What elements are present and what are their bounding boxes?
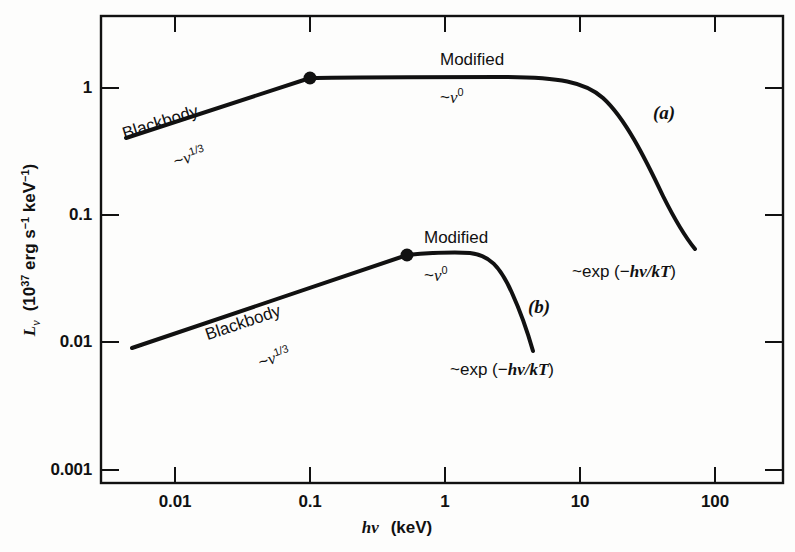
y-axis-title-symbol: L: [20, 326, 39, 336]
y-axis-unit-prefix: (10: [20, 287, 39, 312]
y-axis-unit-exp3: −1: [19, 170, 31, 182]
x-tick-label-100: 100: [701, 492, 729, 512]
y-axis-ticks-left: [101, 88, 119, 470]
y-tick-label-0.1: 0.1: [0, 205, 92, 225]
y-axis-unit-exp1: 37: [19, 275, 31, 287]
panel-tag-a: (a): [653, 102, 675, 124]
y-axis-unit-mid2: keV: [20, 182, 39, 217]
curve-b: [132, 253, 533, 351]
y-axis-title: Lν(1037 erg s−1 keV−1): [20, 164, 43, 336]
y-axis-unit-suffix: ): [20, 164, 39, 170]
y-axis-title-subscript: ν: [29, 320, 43, 325]
exp-upper-modified: 0: [457, 86, 463, 98]
x-axis-ticks-bottom: [175, 467, 715, 483]
annotation-lower-modified: Modified: [424, 228, 488, 248]
x-tick-label-0.1: 0.1: [298, 492, 321, 512]
curve-a-transition-dot: [304, 72, 317, 85]
y-tick-label-0.001: 0.001: [0, 460, 92, 480]
lower-cutoff-math: hν/kT: [508, 360, 549, 379]
x-axis-title: hν(keV): [362, 518, 433, 538]
lower-cutoff-prefix: exp (−: [460, 360, 508, 379]
curve-b-transition-dot: [401, 249, 414, 262]
y-axis-unit-exp2: −1: [19, 217, 31, 229]
x-tick-label-1: 1: [440, 492, 449, 512]
x-axis-ticks-top: [175, 16, 715, 32]
upper-cutoff-math: hν/kT: [630, 262, 671, 281]
y-axis-unit-mid1: erg s: [20, 229, 39, 274]
curve-a: [126, 77, 695, 249]
x-tick-label-10: 10: [571, 492, 590, 512]
panel-tag-b: (b): [528, 296, 550, 318]
exp-lower-modified: 0: [441, 264, 447, 276]
x-tick-label-0.01: 0.01: [159, 492, 191, 512]
annotation-lower-cutoff: ~exp (−hν/kT): [450, 360, 554, 380]
upper-cutoff-prefix: exp (−: [582, 262, 630, 281]
annotation-lower-modified-power: ~ν0: [424, 266, 448, 286]
tilde-upper-modified: ~: [440, 88, 450, 107]
annotation-upper-cutoff: ~exp (−hν/kT): [572, 262, 676, 282]
x-axis-title-unit: (keV): [391, 518, 433, 537]
exp-upper-blackbody: 1/3: [187, 142, 205, 158]
axis-frame: [101, 16, 783, 483]
lower-cutoff-suffix: ): [548, 360, 554, 379]
figure-root: 1 0.1 0.01 0.001 0.01 0.1 1 10 100 hν(ke…: [0, 0, 795, 552]
y-tick-label-0.01: 0.01: [0, 332, 92, 352]
y-tick-label-1: 1: [0, 78, 92, 98]
y-axis-ticks-right: [765, 88, 783, 470]
tilde-lower-cutoff: ~: [450, 360, 460, 379]
upper-cutoff-suffix: ): [670, 262, 676, 281]
tilde-upper-cutoff: ~: [572, 262, 582, 281]
tilde-lower-modified: ~: [424, 266, 434, 285]
annotation-upper-modified-power: ~ν0: [440, 88, 464, 108]
annotation-upper-modified: Modified: [440, 50, 504, 70]
x-axis-title-symbol: hν: [362, 518, 379, 537]
